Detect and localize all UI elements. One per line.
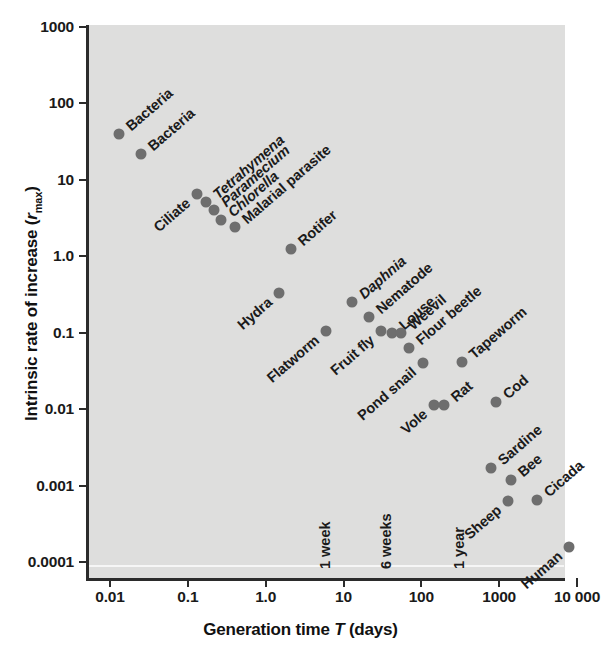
data-point: [404, 343, 415, 354]
data-point: [321, 326, 332, 337]
data-point: [363, 312, 374, 323]
data-point: [503, 496, 514, 507]
time-annotation: 6 weeks: [378, 513, 394, 569]
data-point: [229, 222, 240, 233]
y-tick-mark: [79, 485, 88, 487]
x-tick-label: 1000: [482, 588, 516, 606]
data-point: [532, 494, 543, 505]
x-tick-mark: [109, 578, 111, 587]
x-tick-label: 0.1: [177, 588, 198, 606]
y-tick-mark: [79, 179, 88, 181]
y-tick-mark: [79, 332, 88, 334]
data-point: [375, 326, 386, 337]
data-point: [563, 542, 574, 553]
y-tick-label: 0.1: [53, 324, 74, 342]
data-point: [274, 288, 285, 299]
x-tick-label: 100: [409, 588, 434, 606]
data-point: [456, 356, 467, 367]
data-point: [216, 214, 227, 225]
y-tick-label: 100: [49, 94, 74, 112]
data-point: [417, 358, 428, 369]
y-tick-mark: [79, 255, 88, 257]
x-tick-mark: [343, 578, 345, 587]
data-point: [490, 396, 501, 407]
scatter-chart-figure: 0.010.11.010100100010 000 1000100101.00.…: [0, 0, 601, 660]
data-point: [505, 474, 516, 485]
time-annotation: 1 year: [451, 527, 467, 569]
data-point: [285, 243, 296, 254]
data-point: [485, 462, 496, 473]
y-tick-mark: [79, 561, 88, 563]
y-tick-label: 10: [57, 171, 74, 189]
x-tick-mark: [576, 578, 578, 587]
data-point: [113, 128, 124, 139]
y-tick-label: 1000: [40, 18, 74, 36]
x-tick-label: 0.01: [95, 588, 124, 606]
x-tick-label: 10: [335, 588, 352, 606]
y-axis-line: [86, 25, 89, 581]
x-tick-label: 1.0: [255, 588, 276, 606]
x-axis-title: Generation time T (days): [0, 620, 601, 640]
y-tick-mark: [79, 408, 88, 410]
x-tick-mark: [498, 578, 500, 587]
data-point: [438, 399, 449, 410]
x-tick-mark: [420, 578, 422, 587]
time-annotation: 1 week: [317, 521, 333, 569]
data-point: [347, 297, 358, 308]
x-tick-mark: [187, 578, 189, 587]
y-tick-mark: [79, 26, 88, 28]
y-tick-label: 0.0001: [28, 553, 74, 571]
y-tick-mark: [79, 102, 88, 104]
y-tick-label: 1.0: [53, 247, 74, 265]
x-tick-label: 10 000: [554, 588, 600, 606]
y-axis-title: Intrinsic rate of increase (rmax): [22, 74, 43, 534]
x-tick-mark: [265, 578, 267, 587]
data-point: [135, 148, 146, 159]
data-point: [396, 327, 407, 338]
y-tick-label: 0.01: [45, 400, 74, 418]
x-axis-line: [88, 578, 565, 581]
